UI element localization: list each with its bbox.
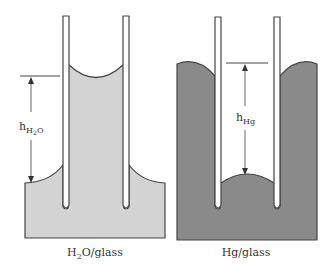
glass-tube-right-wall xyxy=(123,16,129,208)
caption-water: H2O/glass xyxy=(67,246,123,261)
arrow-up-icon xyxy=(28,77,34,84)
mercury-glass-diagram: hHg Hg/glass xyxy=(177,17,317,259)
height-label-water: hH2O xyxy=(19,120,44,136)
arrow-up-icon xyxy=(242,64,248,71)
mercury-column xyxy=(221,174,274,210)
glass-tube-left-wall xyxy=(215,17,221,208)
glass-tube-left-wall xyxy=(63,16,69,208)
glass-tube-right-wall xyxy=(274,17,280,208)
mercury-reservoir xyxy=(177,62,317,240)
caption-mercury: Hg/glass xyxy=(222,246,271,259)
water-column xyxy=(69,65,123,210)
height-label-mercury: hHg xyxy=(236,111,255,126)
capillary-diagram: hH2O H2O/glass hHg Hg/glass xyxy=(0,0,333,265)
water-glass-diagram: hH2O H2O/glass xyxy=(19,16,165,261)
